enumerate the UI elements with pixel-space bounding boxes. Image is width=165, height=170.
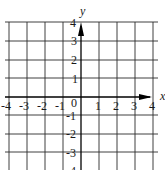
x-tick-label: -1	[55, 99, 65, 113]
x-tick-label: 4	[149, 99, 155, 113]
y-axis-arrow-icon	[78, 22, 84, 36]
x-axis-label: x	[159, 89, 165, 103]
y-axis	[78, 22, 84, 170]
y-tick-label: 4	[70, 16, 76, 30]
y-tick-label: -3	[66, 146, 76, 160]
x-tick-label: -2	[37, 99, 47, 113]
y-tick-label: -1	[66, 109, 76, 123]
x-tick-label: -4	[1, 99, 11, 113]
y-tick-label: -2	[66, 127, 76, 141]
y-tick-label: -4	[66, 164, 76, 170]
x-tick-label: -3	[19, 99, 29, 113]
origin-label: 0	[71, 96, 77, 110]
x-tick-label: 3	[131, 99, 137, 113]
x-tick-label: 1	[95, 99, 101, 113]
y-tick-label: 2	[71, 53, 77, 67]
y-tick-label: 1	[72, 72, 78, 86]
y-axis-label: y	[79, 4, 86, 18]
y-tick-label: 3	[71, 34, 77, 48]
x-tick-label: 2	[113, 99, 119, 113]
coordinate-grid: y x -4 -3 -2 -1 0 1 2 3 4 4 3 2 1 -1 -2 …	[0, 0, 165, 170]
